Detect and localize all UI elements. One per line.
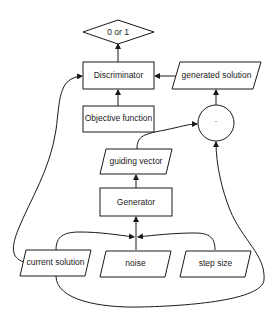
guiding-vector-label: guiding vector	[110, 156, 163, 166]
multiply-node: ·	[198, 105, 234, 141]
discriminator-label: Discriminator	[94, 70, 144, 80]
edge-step-size-to-generator	[138, 233, 215, 250]
flowchart-canvas: 0 or 1 Discriminator Objective function …	[0, 0, 279, 323]
objective-function-label: Objective function	[85, 113, 153, 123]
output-diamond: 0 or 1	[83, 20, 154, 44]
discriminator-node: Discriminator	[83, 62, 154, 89]
step-size-label: step size	[199, 258, 233, 268]
generator-node: Generator	[100, 188, 172, 216]
guiding-vector-node: guiding vector	[100, 149, 172, 174]
multiply-label: ·	[215, 116, 218, 126]
output-label: 0 or 1	[107, 27, 129, 37]
objective-function-node: Objective function	[83, 106, 154, 132]
edge-current-solution-to-discriminator	[13, 76, 82, 262]
current-solution-node: current solution	[20, 250, 91, 276]
current-solution-label: current solution	[26, 257, 84, 267]
step-size-node: step size	[180, 251, 251, 277]
edge-current-solution-to-generator	[56, 232, 134, 250]
noise-node: noise	[100, 251, 171, 277]
generated-solution-node: generated solution	[172, 62, 261, 89]
generator-label: Generator	[117, 197, 155, 207]
generated-solution-label: generated solution	[182, 70, 252, 80]
noise-label: noise	[125, 258, 146, 268]
